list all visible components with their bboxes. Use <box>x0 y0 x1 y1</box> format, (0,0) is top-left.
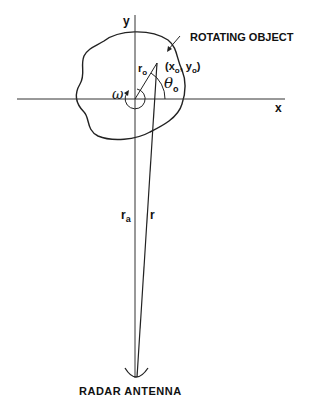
radar-antenna-label: RADAR ANTENNA <box>79 385 182 397</box>
omega-label: ω <box>112 86 124 102</box>
x-axis-label: x <box>275 101 282 115</box>
omega-arrowhead-icon <box>124 90 129 96</box>
radar-geometry-diagram: y x ROTATING OBJECT (xo, yo) ro θo ω ra … <box>0 0 318 415</box>
rotating-object-label: ROTATING OBJECT <box>190 31 294 43</box>
y-axis-label: y <box>123 14 130 28</box>
theta-arc <box>151 73 165 99</box>
r-label: r <box>150 208 155 222</box>
r-a-label: ra <box>121 208 132 224</box>
r-o-label: ro <box>138 62 147 77</box>
theta-label: θo <box>164 74 179 94</box>
